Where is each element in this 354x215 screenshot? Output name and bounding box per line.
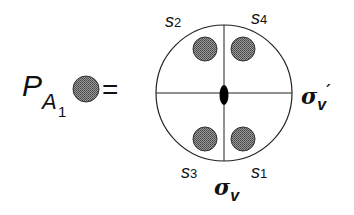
orbital-icon <box>73 76 99 102</box>
orbital-s2 <box>193 37 217 61</box>
label-s2: s2 <box>165 12 181 30</box>
central-atom <box>220 85 229 105</box>
label-s1: s1 <box>251 163 267 181</box>
orbital-s3 <box>193 127 217 151</box>
orbital-s1 <box>231 127 255 151</box>
label-s4: s4 <box>251 9 267 27</box>
label-s3: s3 <box>181 163 197 181</box>
label-sigma-v-prime: σv′ <box>301 85 330 107</box>
equals-sign: = <box>102 76 118 104</box>
label-sigma-v: σv <box>214 176 239 198</box>
orbital-s4 <box>231 37 255 61</box>
